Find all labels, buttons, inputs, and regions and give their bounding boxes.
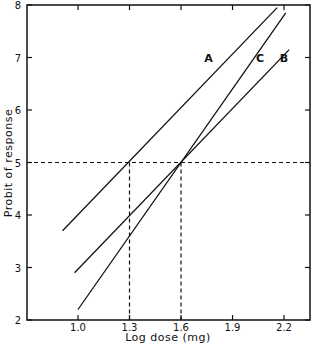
series-line-c (78, 13, 286, 310)
y-tick-label: 4 (15, 210, 21, 221)
series-label-c: C (256, 52, 264, 65)
series-label-b: B (280, 52, 288, 65)
y-tick-label: 5 (15, 158, 21, 169)
probit-chart: 2345678 1.01.31.61.92.2 ACB Log dose (mg… (0, 0, 313, 346)
x-tick-label: 1.0 (70, 322, 86, 333)
reference-lines (27, 163, 310, 321)
y-tick-label: 2 (15, 315, 21, 326)
series-label-a: A (204, 52, 213, 65)
y-tick-label: 7 (15, 53, 21, 64)
x-axis-label: Log dose (mg) (125, 331, 211, 344)
y-tick-label: 3 (15, 263, 21, 274)
y-axis-label: Probit of response (2, 109, 15, 217)
x-tick-label: 1.9 (225, 322, 241, 333)
series-labels: ACB (204, 52, 288, 65)
x-tick-label: 2.2 (276, 322, 292, 333)
y-tick-label: 6 (15, 105, 21, 116)
y-tick-label: 8 (15, 0, 21, 11)
series-line-a (63, 8, 278, 231)
